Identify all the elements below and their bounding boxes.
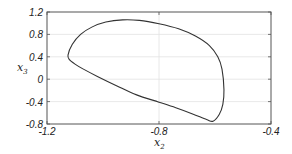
y-tick-label: 0.8 — [29, 29, 43, 40]
y-axis-label: x3 — [17, 61, 28, 76]
y-tick-label: -0.4 — [26, 97, 44, 108]
y-tick-label: -0.8 — [26, 119, 44, 130]
limit-cycle-curve — [68, 20, 224, 122]
phase-portrait-chart: -1.2-0.8-0.4 -0.8-0.400.40.81.2 x2 x3 — [0, 0, 292, 154]
y-tick-labels: -0.8-0.400.40.81.2 — [26, 7, 44, 130]
x-axis-label: x2 — [154, 136, 165, 151]
x-tick-label: -0.4 — [262, 126, 280, 137]
y-tick-label: 0 — [37, 74, 43, 85]
y-tick-label: 1.2 — [29, 7, 43, 18]
y-tick-label: 0.4 — [29, 52, 43, 63]
